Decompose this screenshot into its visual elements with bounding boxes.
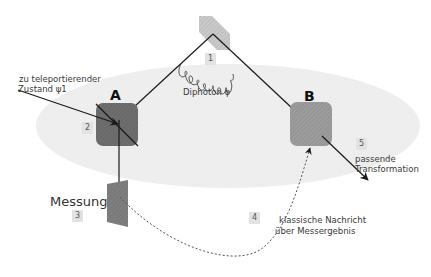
transform-label-1: passende — [355, 154, 396, 164]
step-badge-5: 5 — [356, 138, 367, 150]
diphoton-label: Diphoton φ — [183, 87, 230, 97]
step-badge-4: 4 — [249, 212, 260, 224]
step-badge-1: 1 — [205, 53, 216, 65]
input-state-label-2: Zustand ψ1 — [18, 84, 67, 94]
node-A-label: A — [110, 87, 121, 103]
classical-label-1: klassische Nachricht — [279, 215, 366, 225]
step-badge-3: 3 — [72, 210, 83, 222]
node-B-label: B — [304, 88, 315, 104]
input-state-label-1: zu teleportierender — [19, 74, 101, 84]
classical-label-2: über Messergebnis — [275, 226, 355, 236]
step-badge-2: 2 — [82, 122, 93, 134]
measurement-label: Messung — [50, 194, 108, 209]
transform-label-2: Transformation — [355, 164, 419, 174]
measurement-crystal — [107, 180, 128, 227]
